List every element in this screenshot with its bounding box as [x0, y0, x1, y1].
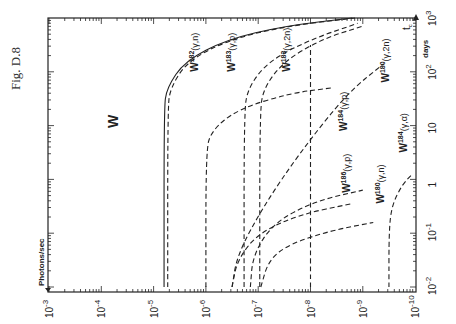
curve-labels: W182(γ,n)W183(γ,p)W183(γ,2n)W180(γ,2n)W1… — [188, 28, 409, 204]
curve-label: W183(γ,2n) — [280, 28, 292, 72]
y-tick-label: 10 — [427, 122, 438, 134]
curve-label: W180(γ,2n) — [379, 38, 391, 82]
x-tick-label: 10-3 — [41, 299, 55, 318]
curve-label: W180(γ,n) — [374, 164, 386, 203]
x-tick-label: 10-4 — [93, 299, 107, 318]
curves — [164, 18, 412, 287]
y-axis-arrow — [413, 14, 419, 20]
curve-label: W184(γ,p) — [337, 92, 349, 131]
curve-label: W183(γ,p) — [225, 33, 237, 72]
curve — [261, 222, 373, 287]
curve-label: W182(γ,n) — [188, 33, 200, 72]
y-tick-label: 102 — [424, 64, 438, 80]
curve-label: W184(γ,α) — [397, 113, 409, 152]
y-tick-label: 1 — [427, 181, 438, 187]
curve-label: W186(γ,p) — [340, 154, 352, 193]
y-axis-title: days — [421, 39, 430, 58]
x-tick-label: 10-7 — [250, 299, 264, 318]
curve — [232, 204, 352, 287]
tc-label: tc — [401, 24, 413, 30]
curve — [206, 88, 332, 287]
curve — [244, 23, 357, 287]
curve — [168, 18, 355, 287]
x-tick-label: 10-10 — [407, 295, 421, 318]
chart: 10-310-410-510-610-710-810-910-1010-210-… — [0, 0, 456, 324]
x-tick-label: 10-9 — [355, 299, 369, 318]
plot-frame — [48, 18, 416, 292]
y-tick-label: 10-2 — [424, 276, 438, 295]
axis-ticks: 10-310-410-510-610-710-810-910-1010-210-… — [41, 10, 438, 318]
x-tick-label: 10-5 — [146, 299, 160, 318]
x-tick-label: 10-6 — [198, 299, 212, 318]
x-tick-label: 10-8 — [303, 299, 317, 318]
x-axis-title: Photons/sec — [37, 238, 46, 286]
curve — [389, 174, 413, 287]
curve — [232, 64, 384, 287]
y-tick-label: 103 — [424, 10, 438, 26]
y-tick-label: 10-1 — [424, 222, 438, 241]
element-label: W — [105, 114, 121, 128]
